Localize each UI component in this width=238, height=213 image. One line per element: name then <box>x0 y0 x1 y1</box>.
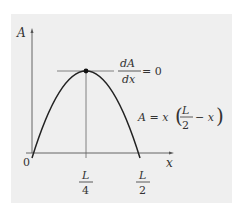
equation-lhs: A = x <box>137 111 169 124</box>
y-axis-label: A <box>16 26 26 40</box>
equation-frac-denominator: 2 <box>182 119 189 132</box>
x-axis-arrow-icon <box>169 152 174 155</box>
tick-l2-denominator: 2 <box>139 184 146 197</box>
tick-l2-numerator: L <box>138 169 146 182</box>
equation-frac-numerator: L <box>181 104 189 117</box>
origin-label: 0 <box>23 156 30 169</box>
derivative-numerator: dA <box>120 57 135 70</box>
y-axis-arrow-icon <box>31 28 34 33</box>
tick-l4-denominator: 4 <box>82 184 89 197</box>
peak-point <box>84 69 89 74</box>
equation-tail: − x <box>195 111 215 124</box>
parabola-diagram: A x 0 L 4 L 2 dA dx = 0 A = x ( L 2 − x … <box>0 0 238 213</box>
derivative-denominator: dx <box>122 73 136 86</box>
derivative-rhs: = 0 <box>142 65 162 78</box>
tick-l4-numerator: L <box>81 169 89 182</box>
equation-right-paren: ) <box>216 104 224 128</box>
x-axis-label: x <box>166 156 173 170</box>
